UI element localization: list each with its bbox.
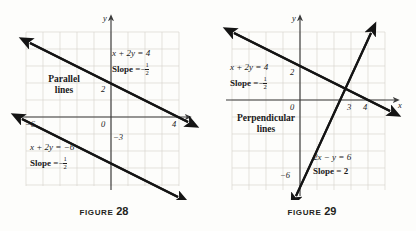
upper-line-slope: Slope =−12 bbox=[112, 62, 149, 76]
negative-slope-line-slope-numerator: 1 bbox=[263, 75, 266, 82]
axes bbox=[226, 20, 394, 196]
upper-line-slope-denominator: 2 bbox=[145, 69, 148, 77]
parallel-lines-label: Parallel lines bbox=[34, 74, 94, 95]
tick-origin: 0 bbox=[101, 120, 105, 130]
tick-y-negative-6: −6 bbox=[280, 171, 290, 181]
figure-29-caption-word: FIGURE bbox=[288, 208, 322, 217]
figure-28-caption-number: 28 bbox=[116, 205, 128, 217]
x-axis-label: x bbox=[398, 101, 402, 111]
tick-y-negative-3: −3 bbox=[113, 133, 123, 143]
tick-x-4: 4 bbox=[363, 103, 367, 113]
figure-page: x y −6 0 4 2 −3 Parallel lines x + 2y = … bbox=[0, 0, 416, 231]
perpendicular-lines-label: Perpendicular lines bbox=[221, 113, 311, 134]
tick-x-negative-6: −6 bbox=[25, 120, 35, 130]
figure-29-plot bbox=[208, 0, 416, 200]
figure-28-caption-word: FIGURE bbox=[80, 208, 114, 217]
figure-29-svg bbox=[208, 0, 416, 200]
lower-line-equation: x + 2y = −6 bbox=[30, 142, 74, 152]
upper-line-slope-fraction: 12 bbox=[145, 62, 148, 76]
tick-x-3: 3 bbox=[347, 103, 351, 113]
y-axis-label: y bbox=[292, 14, 296, 24]
parallel-lines-label-line2: lines bbox=[55, 85, 73, 95]
positive-slope-line-slope: Slope = 2 bbox=[313, 166, 348, 176]
figure-29: x y 0 3 4 2 −6 x + 2y = 4 Slope =−12 Per… bbox=[208, 0, 416, 231]
figure-28: x y −6 0 4 2 −3 Parallel lines x + 2y = … bbox=[0, 0, 208, 231]
negative-slope-line-slope: Slope =−12 bbox=[230, 76, 267, 90]
lower-line-slope: Slope =−12 bbox=[30, 156, 67, 170]
tick-x-4: 4 bbox=[172, 120, 176, 130]
upper-line-equation: x + 2y = 4 bbox=[112, 48, 150, 58]
upper-line-slope-text: Slope = bbox=[112, 64, 140, 74]
lower-line-slope-fraction: 12 bbox=[63, 156, 66, 170]
tick-y-2: 2 bbox=[101, 85, 105, 95]
lower-line-slope-text: Slope = bbox=[30, 158, 58, 168]
y-axis-label: y bbox=[103, 14, 107, 24]
tick-origin: 0 bbox=[290, 103, 294, 113]
perpendicular-lines-label-line1: Perpendicular bbox=[237, 113, 295, 123]
parallel-lines-label-line1: Parallel bbox=[48, 74, 80, 84]
figure-29-caption-number: 29 bbox=[324, 205, 336, 217]
positive-slope-line-equation: 2x − y = 6 bbox=[313, 152, 351, 162]
negative-slope-line-slope-fraction: 12 bbox=[263, 76, 266, 90]
tick-y-2: 2 bbox=[290, 68, 294, 78]
lower-line-slope-denominator: 2 bbox=[63, 163, 66, 171]
perpendicular-lines-label-line2: lines bbox=[257, 124, 275, 134]
upper-line-slope-numerator: 1 bbox=[145, 61, 148, 68]
figure-28-caption: FIGURE 28 bbox=[0, 205, 208, 217]
figure-29-caption: FIGURE 29 bbox=[208, 205, 416, 217]
negative-slope-line-equation: x + 2y = 4 bbox=[230, 62, 268, 72]
lower-line-slope-numerator: 1 bbox=[63, 155, 66, 162]
x-axis-label: x bbox=[190, 118, 194, 128]
negative-slope-line-slope-text: Slope = bbox=[230, 78, 258, 88]
negative-slope-line-slope-denominator: 2 bbox=[263, 83, 266, 91]
